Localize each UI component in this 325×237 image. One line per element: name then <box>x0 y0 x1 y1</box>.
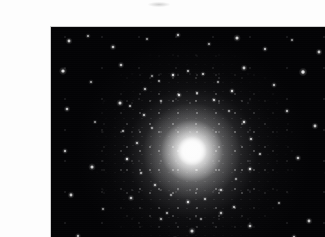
page-background <box>0 0 325 237</box>
scan-artifact <box>148 2 170 7</box>
cluster-core-layer <box>51 27 325 237</box>
astronomy-photo <box>51 27 325 237</box>
